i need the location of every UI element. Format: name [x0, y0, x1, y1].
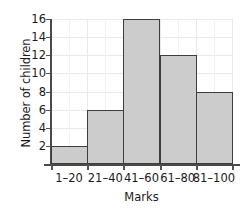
x-axis-tick-mark [51, 165, 53, 170]
x-axis-line [44, 164, 240, 166]
x-axis-tick-labels: 1–2021–4041–6061–8081–100 [42, 172, 242, 188]
x-axis-tick-mark [196, 165, 198, 170]
x-axis-tick-mark [123, 165, 125, 170]
x-axis-title: Marks [51, 190, 232, 204]
bar [196, 92, 233, 165]
y-axis-tick-label: 2 [24, 140, 46, 151]
histogram-chart: Number of children 246810121416 1–2021–4… [0, 0, 248, 217]
bar [123, 19, 160, 164]
bar [87, 110, 124, 164]
y-axis-tick-label: 8 [24, 86, 46, 97]
x-axis-tick-mark [232, 165, 234, 170]
y-axis-tick-label: 4 [24, 122, 46, 133]
x-axis-tick-mark [87, 165, 89, 170]
bar [160, 55, 197, 164]
bar [51, 146, 88, 164]
x-axis-tick-label: 81–100 [190, 172, 238, 185]
x-axis-tick-mark [160, 165, 162, 170]
y-axis-tick-label: 12 [24, 50, 46, 61]
y-axis-tick-label: 10 [24, 68, 46, 79]
y-axis-tick-label: 16 [24, 14, 46, 25]
bars-layer [51, 19, 232, 164]
y-axis-tick-label: 14 [24, 32, 46, 43]
y-axis-tick-label: 6 [24, 104, 46, 115]
